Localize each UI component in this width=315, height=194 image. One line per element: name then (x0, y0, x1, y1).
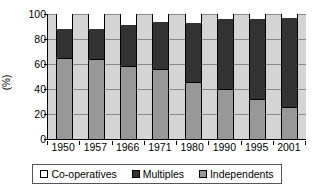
bar-group-2001[interactable] (281, 14, 298, 139)
bar-segment-multiples-2001[interactable] (282, 18, 297, 108)
bar-group-1971[interactable] (152, 14, 169, 139)
x-axis-tick-mark (176, 141, 177, 145)
bar-group-1990[interactable] (217, 14, 234, 139)
legend-swatch-icon (40, 170, 48, 178)
x-axis-tick-label-1995: 1995 (241, 141, 273, 154)
x-axis-tick-mark (144, 141, 145, 145)
x-axis-tick-label-1966: 1966 (112, 141, 144, 154)
y-axis-tick-label: 0 (2, 134, 46, 144)
bar-segment-multiples-1990[interactable] (218, 19, 233, 90)
bar-segment-independents-1990[interactable] (218, 90, 233, 139)
x-axis-tick-mark (112, 141, 113, 145)
bar-segment-cooperatives-1971[interactable] (153, 14, 168, 22)
plot-area (47, 14, 306, 140)
legend-label: Independents (210, 168, 274, 180)
bar-segment-cooperatives-1980[interactable] (186, 14, 201, 23)
legend-swatch-icon (199, 170, 207, 178)
bar-group-1995[interactable] (249, 14, 266, 139)
legend-item-multiples[interactable]: Multiples (132, 168, 184, 180)
bar-group-1957[interactable] (88, 14, 105, 139)
bar-segment-independents-1950[interactable] (57, 59, 72, 139)
bar-segment-multiples-1980[interactable] (186, 23, 201, 83)
y-axis-tick-label: 20 (2, 109, 46, 119)
y-axis-tick-label: 60 (2, 59, 46, 69)
bar-group-1966[interactable] (120, 14, 137, 139)
legend-swatch-icon (132, 170, 140, 178)
y-axis-tick-label: 40 (2, 84, 46, 94)
y-axis-tick-label: 80 (2, 34, 46, 44)
x-axis-tick-mark (305, 141, 306, 145)
bar-group-1980[interactable] (185, 14, 202, 139)
x-axis-tick-mark (47, 141, 48, 145)
bar-segment-cooperatives-1966[interactable] (121, 14, 136, 25)
bar-series-container (48, 14, 306, 139)
x-axis-tick-mark (241, 141, 242, 145)
bar-segment-independents-1980[interactable] (186, 83, 201, 139)
bar-segment-independents-1995[interactable] (250, 100, 265, 139)
x-axis-tick-label-1971: 1971 (144, 141, 176, 154)
x-axis-tick-labels: 19501957196619711980199019952001 (47, 141, 305, 157)
chart-legend: Co-operativesMultiplesIndependents (32, 164, 282, 184)
x-axis-tick-label-1980: 1980 (176, 141, 208, 154)
y-axis-tick-labels: 020406080100 (0, 14, 46, 139)
bar-segment-multiples-1950[interactable] (57, 29, 72, 59)
bar-segment-cooperatives-1950[interactable] (57, 14, 72, 29)
stacked-bar-chart: (%) 020406080100 19501957196619711980199… (0, 0, 315, 194)
x-axis-tick-label-1990: 1990 (208, 141, 240, 154)
bar-segment-multiples-1957[interactable] (89, 29, 104, 60)
bar-segment-multiples-1995[interactable] (250, 19, 265, 100)
bar-segment-cooperatives-1957[interactable] (89, 14, 104, 29)
x-axis-tick-mark (208, 141, 209, 145)
x-axis-tick-mark (79, 141, 80, 145)
bar-segment-multiples-1966[interactable] (121, 25, 136, 66)
bar-group-1950[interactable] (56, 14, 73, 139)
bar-segment-independents-1971[interactable] (153, 70, 168, 139)
bar-segment-multiples-1971[interactable] (153, 22, 168, 71)
bar-segment-independents-1957[interactable] (89, 60, 104, 139)
legend-item-independents[interactable]: Independents (199, 168, 274, 180)
legend-item-cooperatives[interactable]: Co-operatives (40, 168, 116, 180)
legend-label: Multiples (143, 168, 184, 180)
bar-segment-independents-1966[interactable] (121, 67, 136, 140)
x-axis-tick-label-1957: 1957 (79, 141, 111, 154)
legend-label: Co-operatives (51, 168, 116, 180)
bar-segment-independents-2001[interactable] (282, 108, 297, 139)
x-axis-tick-mark (273, 141, 274, 145)
x-axis-tick-label-1950: 1950 (47, 141, 79, 154)
y-axis-tick-label: 100 (2, 9, 46, 19)
x-axis-tick-label-2001: 2001 (273, 141, 305, 154)
